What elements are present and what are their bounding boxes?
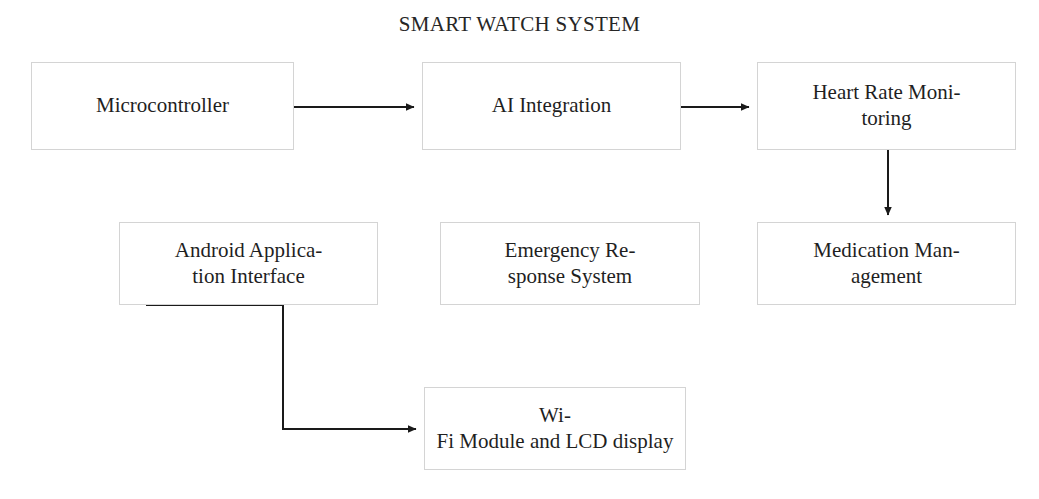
node-label: Wi-Fi Module and LCD display: [431, 403, 679, 454]
edge-android-app-to-wifi-lcd: [146, 305, 416, 429]
node-microcontroller[interactable]: Microcontroller: [31, 62, 294, 150]
node-label: Heart Rate Moni-toring: [764, 80, 1009, 131]
node-label: AI Integration: [429, 93, 674, 119]
node-label: Emergency Re-sponse System: [447, 238, 693, 289]
node-wifi-module-lcd-display[interactable]: Wi-Fi Module and LCD display: [424, 387, 686, 470]
node-medication-management[interactable]: Medication Man-agement: [757, 222, 1016, 305]
node-heart-rate-monitoring[interactable]: Heart Rate Moni-toring: [757, 62, 1016, 150]
node-emergency-response-system[interactable]: Emergency Re-sponse System: [440, 222, 700, 305]
page-title: SMART WATCH SYSTEM: [0, 12, 1039, 37]
node-ai-integration[interactable]: AI Integration: [422, 62, 681, 150]
node-label: Microcontroller: [38, 93, 287, 119]
node-android-application-interface[interactable]: Android Applica-tion Interface: [119, 222, 378, 305]
node-label: Medication Man-agement: [764, 238, 1009, 289]
diagram-canvas: SMART WATCH SYSTEM Microcontroller AI In…: [0, 0, 1039, 499]
node-label: Android Applica-tion Interface: [126, 238, 371, 289]
